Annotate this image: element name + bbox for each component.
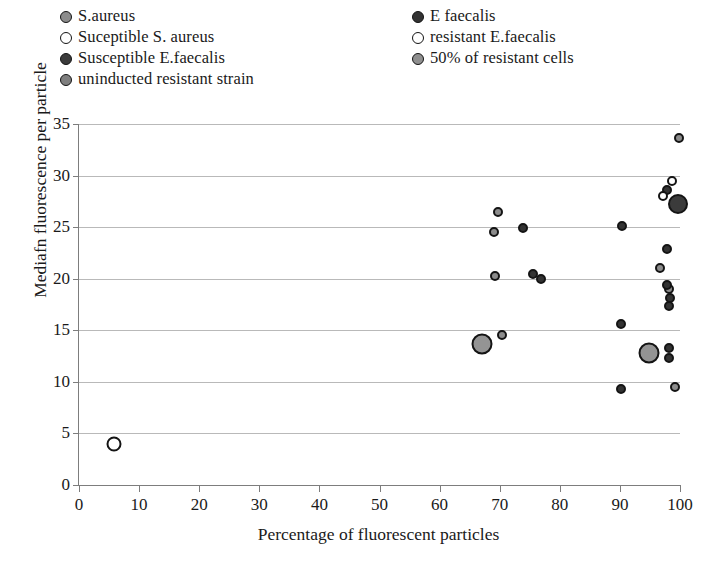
data-point (664, 343, 674, 353)
legend-item-e-faecalis: E faecalis (412, 6, 574, 27)
legend-marker-circle-icon (412, 53, 424, 65)
data-point (106, 436, 121, 451)
x-axis-tick (680, 485, 681, 492)
chart-legend: S.aureus Suceptible S. aureus Susceptibl… (0, 0, 718, 100)
y-axis-title: Mediafn fluorescence per particle (30, 0, 51, 380)
legend-item-uninducted-resistant-strain: uninducted resistant strain (60, 69, 254, 90)
gridline-horizontal (79, 279, 680, 280)
legend-label: S.aureus (78, 8, 135, 25)
gridline-horizontal (79, 227, 680, 228)
x-axis-tick (560, 485, 561, 492)
x-axis-tick (319, 485, 320, 492)
legend-item-resistant-e-faecalis: resistant E.faecalis (412, 27, 574, 48)
x-axis-tick-label: 60 (431, 495, 448, 515)
y-axis-tick (73, 382, 79, 383)
data-point (664, 301, 674, 311)
data-point (489, 227, 499, 237)
x-axis-tick (380, 485, 381, 492)
legend-item-susceptible-e-faecalis: Susceptible E.faecalis (60, 48, 254, 69)
x-axis-tick (199, 485, 200, 492)
x-axis-tick-label: 20 (191, 495, 208, 515)
gridline-horizontal (79, 433, 680, 434)
y-axis-tick-label: 15 (53, 320, 70, 340)
legend-marker-circle-icon (60, 11, 72, 23)
data-point (638, 342, 659, 363)
data-point (662, 244, 672, 254)
y-axis-tick-label: 25 (53, 217, 70, 237)
y-axis-tick (73, 176, 79, 177)
data-point (497, 330, 507, 340)
x-axis-tick (79, 485, 80, 492)
plot-area: 051015202530350102030405060708090100 (78, 124, 680, 486)
data-point (493, 207, 503, 217)
legend-item-s-aureus: S.aureus (60, 6, 254, 27)
x-axis-tick (620, 485, 621, 492)
legend-label: Susceptible E.faecalis (78, 50, 225, 67)
y-axis-tick-label: 0 (62, 475, 71, 495)
gridline-horizontal (79, 382, 680, 383)
data-point (518, 223, 528, 233)
gridline-horizontal (79, 330, 680, 331)
y-axis-tick (73, 124, 79, 125)
gridline-horizontal (79, 124, 680, 125)
y-axis-tick (73, 279, 79, 280)
legend-item-50-percent-resistant-cells: 50% of resistant cells (412, 48, 574, 69)
x-axis-title: Percentage of fluorescent particles (78, 524, 679, 545)
legend-marker-circle-icon (60, 74, 72, 86)
y-axis-tick (73, 227, 79, 228)
x-axis-tick-label: 10 (131, 495, 148, 515)
data-point (471, 333, 492, 354)
data-point (655, 263, 665, 273)
x-axis-tick-label: 40 (311, 495, 328, 515)
legend-label: 50% of resistant cells (430, 50, 574, 67)
gridline-horizontal (79, 176, 680, 177)
data-point (658, 191, 668, 201)
x-axis-tick-label: 0 (75, 495, 84, 515)
data-point (536, 274, 546, 284)
legend-label: Suceptible S. aureus (78, 29, 214, 46)
data-point (668, 194, 688, 214)
x-axis-tick-label: 90 (611, 495, 628, 515)
legend-label: E faecalis (430, 8, 496, 25)
scatter-plot-figure: S.aureus Suceptible S. aureus Susceptibl… (0, 0, 718, 581)
legend-column-right: E faecalis resistant E.faecalis 50% of r… (412, 6, 574, 69)
y-axis-tick-label: 5 (62, 423, 71, 443)
x-axis-tick (500, 485, 501, 492)
x-axis-tick-label: 70 (491, 495, 508, 515)
y-axis-tick-label: 30 (53, 166, 70, 186)
data-point (670, 382, 680, 392)
data-point (662, 280, 672, 290)
y-axis-tick-label: 20 (53, 269, 70, 289)
x-axis-tick (259, 485, 260, 492)
legend-marker-circle-icon (60, 32, 72, 44)
x-axis-tick-label: 80 (551, 495, 568, 515)
data-point (664, 353, 674, 363)
legend-marker-circle-icon (412, 32, 424, 44)
x-axis-tick (440, 485, 441, 492)
legend-item-suceptible-s-aureus: Suceptible S. aureus (60, 27, 254, 48)
x-axis-tick-label: 50 (371, 495, 388, 515)
data-point (490, 271, 500, 281)
data-point (674, 133, 684, 143)
data-point (617, 221, 627, 231)
x-axis-tick-label: 30 (251, 495, 268, 515)
data-point (616, 384, 626, 394)
data-point (667, 176, 677, 186)
y-axis-tick-label: 10 (53, 372, 70, 392)
legend-column-left: S.aureus Suceptible S. aureus Susceptibl… (60, 6, 254, 90)
data-point (616, 319, 626, 329)
y-axis-tick-label: 35 (53, 114, 70, 134)
legend-label: resistant E.faecalis (430, 29, 556, 46)
y-axis-tick (73, 330, 79, 331)
legend-label: uninducted resistant strain (78, 71, 254, 88)
legend-marker-circle-icon (60, 53, 72, 65)
legend-marker-circle-icon (412, 11, 424, 23)
y-axis-tick (73, 433, 79, 434)
x-axis-tick-label: 100 (667, 495, 693, 515)
x-axis-tick (139, 485, 140, 492)
